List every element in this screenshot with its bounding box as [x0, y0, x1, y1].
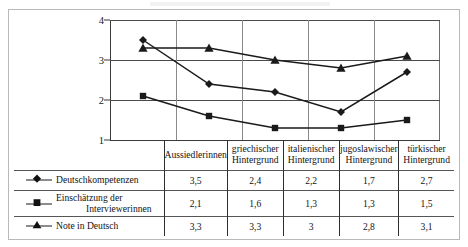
triangle-marker-icon	[26, 221, 52, 231]
cell-r0-c4: 2,7	[399, 171, 454, 191]
column-header-2: italienischer Hintergrund	[283, 140, 339, 171]
cell-r0-c1: 2,4	[227, 171, 283, 191]
cell-r0-c3: 1,7	[339, 171, 399, 191]
column-header-0-line1: Aussiedlerinnen	[165, 149, 227, 160]
column-header-2-line1: italienischer	[288, 143, 335, 154]
data-point-s1-p3	[338, 125, 344, 131]
cell-r1-c3: 1,3	[339, 191, 399, 217]
table-row: Deutschkompetenzen 3,5 2,4 2,2 1,7 2,7	[14, 171, 454, 191]
cell-r0-c0: 3,5	[164, 171, 227, 191]
series-layer	[110, 20, 440, 140]
cell-r2-c2: 3	[283, 217, 339, 237]
data-point-s1-p2	[272, 125, 278, 131]
data-point-s0-p2	[271, 88, 279, 96]
data-point-s2-p4	[402, 51, 411, 59]
legend-item-deutschkompetenzen: Deutschkompetenzen	[14, 171, 164, 191]
column-header-4-line1: türkischer	[407, 143, 445, 154]
data-point-s1-p0	[140, 93, 146, 99]
header-legend-spacer	[14, 140, 164, 171]
line-chart: 4 3 2 1	[0, 0, 468, 146]
y-tick-label-2: 2	[82, 95, 104, 106]
cell-r1-c0: 2,1	[164, 191, 227, 217]
data-table: Aussiedlerinnen griechischer Hintergrund…	[14, 140, 454, 236]
legend-label-1-line2: Interviewerinnen	[56, 204, 152, 215]
column-header-3: jugoslawischer Hintergrund	[339, 140, 399, 171]
y-tick-label-4: 4	[82, 15, 104, 26]
series-line-0	[143, 40, 407, 112]
column-header-1-line2: Hintergrund	[232, 154, 279, 165]
data-table-region: Aussiedlerinnen griechischer Hintergrund…	[0, 140, 468, 240]
table-row: Note in Deutsch 3,3 3,3 3 2,8 3,1	[14, 217, 454, 237]
cell-r2-c1: 3,3	[227, 217, 283, 237]
data-point-s0-p3	[337, 108, 345, 116]
column-header-4-line2: Hintergrund	[403, 154, 450, 165]
legend-label-1-line1: Einschätzung der	[56, 192, 122, 203]
cell-r2-c4: 3,1	[399, 217, 454, 237]
series-line-1	[143, 96, 407, 128]
data-point-s0-p1	[205, 80, 213, 88]
chart-figure: 4 3 2 1 Aussiedlerinnen	[0, 0, 468, 247]
column-header-3-line1: jugoslawischer	[340, 143, 398, 154]
cell-r1-c4: 1,5	[399, 191, 454, 217]
table-header-row: Aussiedlerinnen griechischer Hintergrund…	[14, 140, 454, 171]
cell-r1-c2: 1,3	[283, 191, 339, 217]
data-point-s1-p4	[404, 117, 410, 123]
data-point-s1-p1	[206, 113, 212, 119]
legend-item-note-in-deutsch: Note in Deutsch	[14, 217, 164, 237]
data-point-s0-p4	[403, 68, 411, 76]
legend-label-1: Einschätzung der Interviewerinnen	[56, 193, 152, 214]
column-header-4: türkischer Hintergrund	[399, 140, 454, 171]
plot-area	[110, 20, 440, 140]
y-tick-label-3: 3	[82, 55, 104, 66]
cell-r0-c2: 2,2	[283, 171, 339, 191]
column-header-2-line2: Hintergrund	[288, 154, 335, 165]
series-triangle	[138, 43, 411, 71]
square-marker-icon	[26, 199, 52, 209]
column-header-1-line1: griechischer	[232, 143, 279, 154]
table-row: Einschätzung der Interviewerinnen 2,1 1,…	[14, 191, 454, 217]
data-point-s0-p0	[139, 36, 147, 44]
cell-r2-c0: 3,3	[164, 217, 227, 237]
cell-r1-c1: 1,6	[227, 191, 283, 217]
column-header-1: griechischer Hintergrund	[227, 140, 283, 171]
legend-item-einschaetzung: Einschätzung der Interviewerinnen	[14, 191, 164, 217]
cell-r2-c3: 2,8	[339, 217, 399, 237]
legend-label-0: Deutschkompetenzen	[56, 175, 139, 186]
series-square	[140, 93, 410, 131]
legend-label-2: Note in Deutsch	[56, 221, 118, 232]
column-header-3-line2: Hintergrund	[346, 154, 393, 165]
y-axis: 4 3 2 1	[78, 20, 104, 140]
column-header-0: Aussiedlerinnen	[164, 140, 227, 171]
diamond-marker-icon	[26, 175, 52, 185]
